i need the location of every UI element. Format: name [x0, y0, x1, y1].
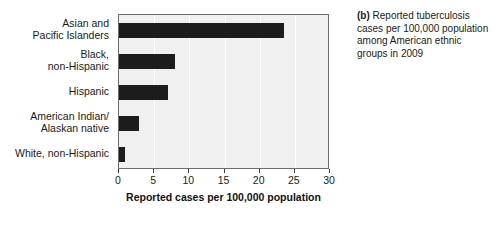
- bar: [119, 23, 284, 38]
- category-axis-labels: Asian and Pacific IslandersBlack, non-Hi…: [0, 14, 113, 169]
- tick-mark: [118, 169, 119, 173]
- category-label: Black, non-Hispanic: [0, 49, 109, 72]
- tick-label: 15: [209, 174, 239, 186]
- category-label: Asian and Pacific Islanders: [0, 18, 109, 41]
- value-axis: 051015202530: [118, 169, 329, 191]
- tick-mark: [224, 169, 225, 173]
- caption-text: Reported tuberculosis cases per 100,000 …: [357, 10, 488, 59]
- tick-mark: [329, 169, 330, 173]
- x-axis-title: Reported cases per 100,000 population: [118, 191, 329, 203]
- tick-mark: [153, 169, 154, 173]
- tick-label: 0: [103, 174, 133, 186]
- plot-area: [118, 14, 329, 169]
- figure-panel-b: Asian and Pacific IslandersBlack, non-Hi…: [0, 0, 494, 225]
- tick-label: 25: [279, 174, 309, 186]
- category-label: White, non-Hispanic: [0, 148, 109, 160]
- figure-caption: (b) Reported tuberculosis cases per 100,…: [357, 10, 493, 60]
- tick-mark: [294, 169, 295, 173]
- tick-mark: [188, 169, 189, 173]
- caption-label: (b): [357, 10, 370, 21]
- category-label: American Indian/ Alaskan native: [0, 111, 109, 134]
- bar: [119, 85, 168, 100]
- gridline: [295, 15, 296, 168]
- category-label: Hispanic: [0, 86, 109, 98]
- tick-label: 20: [244, 174, 274, 186]
- tick-label: 10: [173, 174, 203, 186]
- bar-chart: Asian and Pacific IslandersBlack, non-Hi…: [0, 0, 340, 225]
- tick-label: 30: [314, 174, 344, 186]
- bar: [119, 54, 175, 69]
- tick-label: 5: [138, 174, 168, 186]
- tick-mark: [259, 169, 260, 173]
- bar: [119, 116, 139, 131]
- bar: [119, 147, 125, 162]
- plot-inner: [119, 15, 328, 168]
